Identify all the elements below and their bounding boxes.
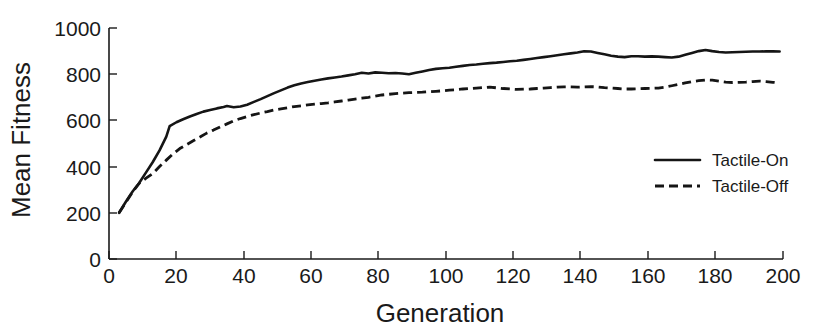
y-tick-label: 400 [66,156,101,179]
series-line-tactile-off [119,80,780,213]
x-tick-label: 100 [428,264,463,287]
x-tick-label: 120 [495,264,530,287]
x-axis-ticks: 0 20 40 60 80 100 120 140 160 180 200 [103,251,800,287]
y-tick-label: 0 [89,248,101,271]
y-tick-label: 1000 [54,17,101,40]
x-tick-label: 80 [366,264,389,287]
y-axis-title: Mean Fitness [6,62,36,218]
y-tick-label: 600 [66,109,101,132]
y-axis-ticks: 0 200 400 600 800 1000 [54,17,117,271]
chart-figure: Mean Fitness Generation 0 200 400 600 80… [0,0,817,332]
x-axis-title-text: Generation [376,298,505,328]
x-tick-label: 200 [765,264,800,287]
chart-svg: Mean Fitness Generation 0 200 400 600 80… [0,0,817,332]
x-tick-label: 60 [299,264,322,287]
series-line-tactile-on [119,50,780,213]
y-axis-title-text: Mean Fitness [6,62,36,218]
y-tick-label: 200 [66,202,101,225]
x-tick-label: 0 [103,264,115,287]
x-tick-label: 20 [164,264,187,287]
x-tick-label: 140 [562,264,597,287]
legend-label-tactile-on: Tactile-On [712,151,789,170]
legend-label-tactile-off: Tactile-Off [712,177,788,196]
x-tick-label: 180 [697,264,732,287]
y-tick-label: 800 [66,63,101,86]
plot-series-group [119,50,780,213]
x-tick-label: 160 [630,264,665,287]
x-tick-label: 40 [232,264,255,287]
chart-legend: Tactile-On Tactile-Off [655,151,789,196]
